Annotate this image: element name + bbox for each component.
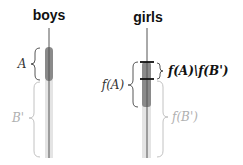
label-fA-minus-fB: f(A)\f(B') (167, 64, 229, 78)
label-A: A (17, 57, 27, 71)
girls-column (140, 28, 154, 158)
girls-column-title: girls (133, 9, 163, 25)
boys-girls-diagram: boys A B' girls f(A) f(A)\f(B') f(B') (0, 0, 243, 165)
label-fA: f(A) (101, 78, 125, 92)
brace-fB-prime-icon (157, 81, 168, 157)
brace-B-prime-icon (29, 82, 40, 157)
label-B-prime: B' (11, 111, 24, 125)
brace-fA-icon (128, 62, 138, 107)
brace-difference-icon (157, 63, 163, 79)
boys-column-title: boys (33, 7, 66, 23)
brace-A-icon (31, 48, 40, 80)
label-fB-prime: f(B') (171, 110, 198, 124)
boys-column (45, 28, 53, 158)
